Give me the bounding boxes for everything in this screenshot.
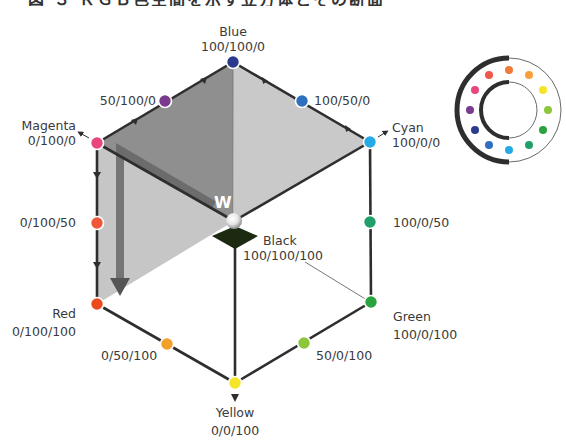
label-100-50-0-value: 100/50/0	[314, 93, 370, 108]
black-leader-line	[305, 262, 367, 300]
dot-50-0-100	[298, 337, 311, 350]
dot-magenta	[91, 137, 104, 150]
face-blue-cyan-white	[233, 62, 370, 221]
label-magenta-value: 0/100/0	[6, 133, 76, 148]
dot-0-100-50	[91, 217, 104, 230]
label-black-name: Black	[243, 233, 323, 248]
dot-cyan	[364, 136, 377, 149]
label-green-name: Green	[393, 309, 457, 324]
label-black-value: 100/100/100	[243, 248, 323, 263]
label-magenta-name: Magenta	[6, 118, 76, 133]
label-blue-name: Blue	[193, 24, 273, 39]
cyan-outward-arrow	[378, 132, 386, 137]
label-0-100-50: 0/100/50	[2, 215, 76, 230]
rgb-cube-diagram	[0, 0, 566, 442]
dot-blue	[227, 56, 240, 69]
dot-red	[91, 298, 104, 311]
white-vertex-ball	[226, 213, 242, 229]
dot-100-0-50	[364, 216, 377, 229]
dot-100-50-0	[296, 95, 309, 108]
label-blue: Blue 100/100/0	[193, 24, 273, 54]
label-50-0-100: 50/0/100	[316, 348, 372, 363]
label-cyan-name: Cyan	[392, 120, 440, 135]
label-100-0-50-value: 100/0/50	[393, 215, 449, 230]
label-50-100-0: 50/100/0	[80, 93, 156, 108]
label-yellow-value: 0/0/100	[195, 423, 275, 438]
label-green: Green 100/0/100	[393, 309, 457, 342]
label-red-value: 0/100/100	[2, 324, 76, 339]
label-cyan: Cyan 100/0/0	[392, 120, 440, 150]
label-yellow-name: Yellow	[195, 405, 275, 420]
dot-yellow	[229, 377, 242, 390]
label-red-name: Red	[2, 306, 76, 321]
label-100-50-0: 100/50/0	[314, 93, 370, 108]
dot-green	[365, 296, 378, 309]
label-50-0-100-value: 50/0/100	[316, 348, 372, 363]
label-magenta: Magenta 0/100/0	[6, 118, 76, 148]
label-50-100-0-value: 50/100/0	[80, 93, 156, 108]
label-100-0-50: 100/0/50	[393, 215, 449, 230]
white-label: W	[214, 193, 232, 212]
dot-50-100-0	[159, 95, 172, 108]
magenta-outward-arrow	[80, 133, 89, 138]
label-red: Red 0/100/100	[2, 306, 76, 339]
label-0-100-50-value: 0/100/50	[2, 215, 76, 230]
color-wheel	[457, 58, 561, 162]
label-green-value: 100/0/100	[393, 327, 457, 342]
label-0-50-100: 0/50/100	[101, 348, 157, 363]
label-cyan-value: 100/0/0	[392, 135, 440, 150]
label-black: Black 100/100/100	[243, 233, 323, 263]
label-blue-value: 100/100/0	[193, 39, 273, 54]
dot-0-50-100	[161, 338, 174, 351]
label-yellow: Yellow 0/0/100	[195, 405, 275, 438]
label-0-50-100-value: 0/50/100	[101, 348, 157, 363]
